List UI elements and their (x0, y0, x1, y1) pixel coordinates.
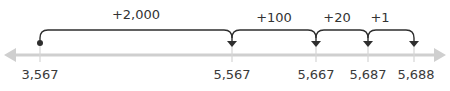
jump-arcs (40, 30, 414, 43)
jump-arrowheads (227, 41, 419, 47)
tick-label: 5,567 (213, 67, 250, 82)
arrow-down-icon (311, 41, 321, 47)
arrow-down-icon (363, 41, 373, 47)
jump-label: +20 (323, 10, 350, 25)
tick-label: 5,687 (349, 67, 386, 82)
arrow-down-icon (409, 41, 419, 47)
tick-label: 3,567 (21, 67, 58, 82)
jump-label: +1 (370, 10, 389, 25)
tick-label: 5,667 (297, 67, 334, 82)
axis-right-arrow-icon (434, 48, 446, 62)
axis-left-arrow-icon (4, 48, 16, 62)
tick-marks (40, 42, 414, 62)
jump-label: +100 (256, 10, 292, 25)
tick-label: 5,688 (397, 67, 434, 82)
jump-label: +2,000 (112, 7, 160, 22)
arrow-down-icon (227, 41, 237, 47)
